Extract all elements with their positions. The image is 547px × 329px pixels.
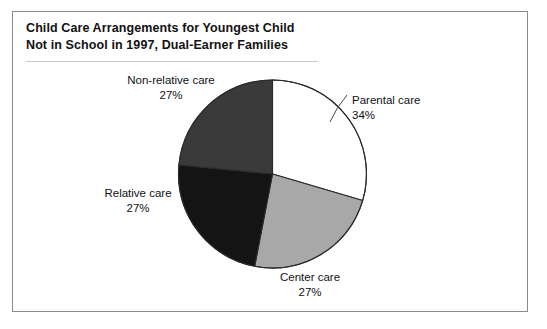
pie-chart-figure: Child Care Arrangements for Youngest Chi… [0,0,547,329]
pie-label-center-care-name: Center care [254,270,366,285]
pie-label-non-relative-care-name: Non-relative care [108,73,234,88]
pie-label-relative-care-name: Relative care [82,186,194,201]
pie-label-parental-care-value: 34% [352,108,420,123]
pie-label-center-care: Center care 27% [254,270,366,300]
pie-slices [179,80,367,268]
pie-label-center-care-value: 27% [254,285,366,300]
pie-label-relative-care: Relative care 27% [82,186,194,216]
pie-label-parental-care-name: Parental care [352,93,420,108]
pie-label-non-relative-care: Non-relative care 27% [108,73,234,103]
pie-label-relative-care-value: 27% [82,201,194,216]
pie-label-non-relative-care-value: 27% [108,88,234,103]
pie-label-parental-care: Parental care 34% [352,93,420,123]
